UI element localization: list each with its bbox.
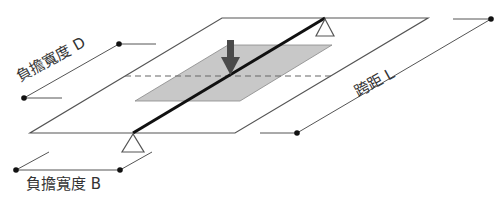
label-load-width-b: 負擔寬度 B xyxy=(26,177,101,192)
dimension-l-dot-top xyxy=(488,16,494,22)
dimension-l-dot-bottom xyxy=(294,130,300,136)
dimension-d-dot-top xyxy=(116,41,122,47)
dimension-b-dot-left xyxy=(13,167,19,173)
dimension-b xyxy=(16,152,152,170)
structural-diagram: 負擔寬度 D 跨距 L 負擔寬度 B xyxy=(0,0,495,201)
dimension-b-dot-right xyxy=(117,167,123,173)
dimension-d-dot-bottom xyxy=(21,95,27,101)
diagram-svg xyxy=(0,0,495,201)
bottom-support-icon xyxy=(122,134,144,152)
